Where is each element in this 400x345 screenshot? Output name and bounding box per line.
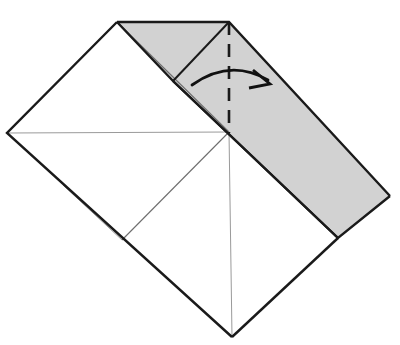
origami-diagram-canvas [0,0,400,345]
origami-diagram-root [0,0,400,345]
